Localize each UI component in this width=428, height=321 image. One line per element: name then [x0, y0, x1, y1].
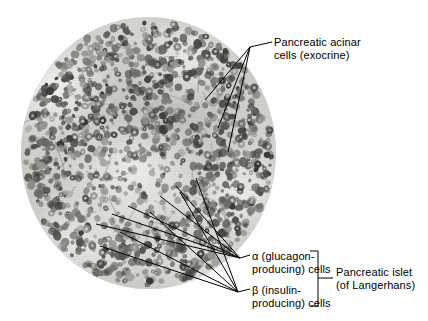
- label-beta-cells: β (insulin- producing) cells: [252, 284, 331, 310]
- label-alpha-line1: α (glucagon-: [252, 250, 331, 263]
- figure-pancreas-histology: Pancreatic acinar cells (exocrine) α (gl…: [0, 0, 428, 321]
- label-acinar-line2: cells (exocrine): [274, 49, 361, 62]
- label-beta-line2: producing) cells: [252, 297, 331, 310]
- label-alpha-cells: α (glucagon- producing) cells: [252, 250, 331, 276]
- micrograph-image: [21, 17, 276, 289]
- micrograph-container: [21, 17, 276, 289]
- label-alpha-line2: producing) cells: [252, 263, 331, 276]
- cell-nuclei-layer: [21, 17, 276, 289]
- label-islet-line2: (of Langerhans): [336, 279, 415, 292]
- label-islet-line1: Pancreatic islet: [336, 266, 415, 279]
- label-acinar-line1: Pancreatic acinar: [274, 36, 361, 49]
- label-pancreatic-acinar-cells: Pancreatic acinar cells (exocrine): [274, 36, 361, 62]
- label-beta-line1: β (insulin-: [252, 284, 331, 297]
- label-pancreatic-islet: Pancreatic islet (of Langerhans): [336, 266, 415, 292]
